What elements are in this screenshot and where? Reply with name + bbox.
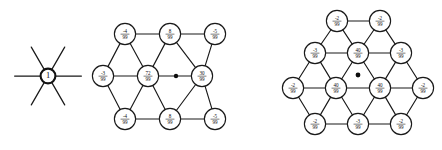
lattice-bond (363, 62, 374, 80)
fraction-denominator: 99 (122, 119, 128, 125)
lattice-node: -499 (114, 108, 135, 129)
lattice-node: -599 (204, 23, 225, 44)
fraction-denominator: 99 (334, 21, 340, 27)
fraction-denominator: 99 (398, 53, 404, 59)
lattice-bond (298, 97, 309, 115)
lattice-bond (341, 97, 352, 115)
lattice-node: -299 (282, 77, 303, 98)
lattice-node: -499 (114, 23, 135, 44)
lattice-node: -299 (369, 10, 390, 31)
fraction-denominator: 99 (167, 119, 173, 125)
lattice-bond (385, 97, 396, 115)
fraction-denominator: 99 (167, 34, 173, 40)
lattice-bond (205, 86, 212, 109)
lattice-node: 4099 (369, 77, 390, 98)
lattice-node: 4099 (325, 77, 346, 98)
lattice-bond (341, 62, 352, 80)
lattice-bond (320, 97, 331, 115)
lattice-bond (364, 29, 374, 44)
fraction-denominator: 99 (355, 124, 361, 130)
fraction-denominator: 99 (355, 53, 361, 59)
lattice-bond (153, 43, 165, 67)
lattice-node: 1 (41, 69, 56, 84)
lattice-bond (298, 62, 309, 80)
lattice-center-dot (174, 74, 178, 78)
lattice-center-dot (356, 73, 361, 78)
lattice-spoke (31, 47, 44, 70)
fraction-denominator: 99 (199, 76, 205, 82)
fraction-denominator: 99 (145, 76, 151, 82)
lattice-bond (130, 43, 143, 67)
lattice-figure-svg: 1-499899-599-39972993099-499899-599-299-… (0, 0, 442, 150)
lattice-bond (320, 62, 330, 79)
lattice-bond (386, 30, 396, 45)
lattice-node: 3099 (191, 65, 212, 86)
fraction-denominator: 99 (312, 124, 318, 130)
fraction-denominator: 99 (122, 34, 128, 40)
lattice-node: -399 (390, 42, 411, 63)
node-value-label: 1 (46, 71, 50, 80)
fraction-denominator: 99 (398, 124, 404, 130)
lattice-node: 7299 (137, 65, 158, 86)
fraction-denominator: 99 (212, 119, 218, 125)
lattice-bond (321, 29, 331, 44)
lattice-node: -299 (326, 10, 347, 31)
lattice-bond (176, 84, 196, 110)
lattice-spoke (31, 82, 44, 105)
fraction-denominator: 99 (333, 88, 339, 94)
lattice-spoke (52, 82, 65, 105)
lattice-node: -299 (390, 113, 411, 134)
lattice-bond (406, 62, 417, 80)
lattice-bond (176, 42, 196, 68)
fraction-denominator: 99 (312, 53, 318, 59)
lattice-spoke (52, 47, 65, 70)
lattice-node: -599 (204, 108, 225, 129)
node-layer: 1-499899-599-39972993099-499899-599-299-… (41, 10, 434, 134)
lattice-bond (363, 97, 374, 115)
lattice-bond (385, 62, 395, 79)
lattice-bond (108, 85, 121, 110)
lattice-figure-root: 1-499899-599-39972993099-499899-599-299-… (0, 0, 442, 150)
lattice-bond (406, 97, 417, 115)
lattice-node: -399 (347, 113, 368, 134)
lattice-node: 899 (159, 23, 180, 44)
lattice-node: 4099 (347, 42, 368, 63)
fraction-denominator: 99 (377, 88, 383, 94)
fraction-denominator: 99 (377, 21, 383, 27)
lattice-node: -299 (304, 113, 325, 134)
lattice-bond (343, 30, 353, 45)
lattice-node: -399 (304, 42, 325, 63)
lattice-bond (205, 44, 212, 66)
lattice-node: 899 (159, 108, 180, 129)
fraction-denominator: 99 (212, 34, 218, 40)
lattice-bond (153, 85, 166, 110)
lattice-bond (108, 43, 120, 67)
lattice-node: -299 (412, 77, 433, 98)
fraction-denominator: 99 (290, 88, 296, 94)
fraction-denominator: 99 (420, 88, 426, 94)
fraction-denominator: 99 (100, 76, 106, 82)
lattice-bond (130, 85, 143, 110)
lattice-node: -399 (92, 65, 113, 86)
